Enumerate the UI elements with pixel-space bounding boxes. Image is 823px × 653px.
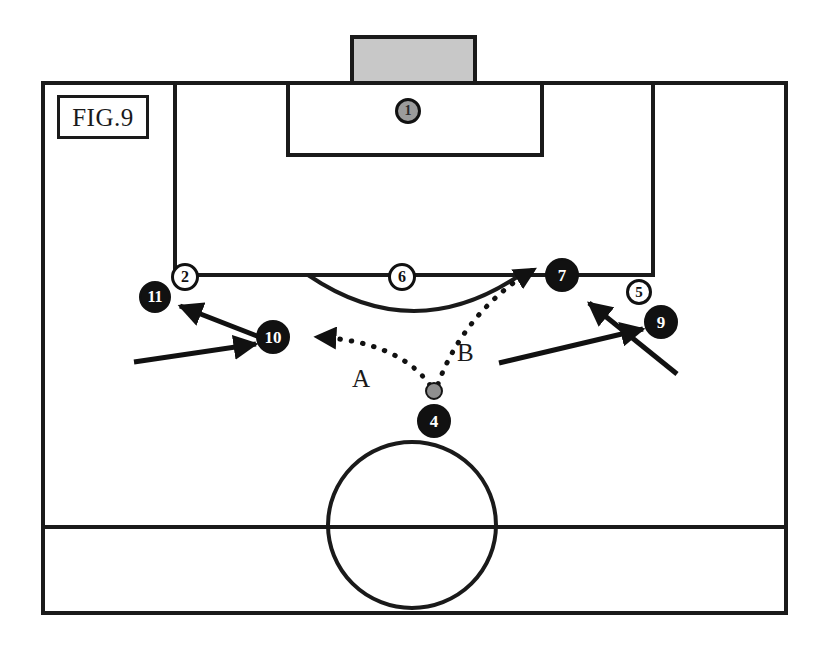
pass-route-b-label-text: B [457, 339, 474, 366]
player-7-number: 7 [558, 267, 567, 284]
pass-route-a-label: A [352, 366, 370, 391]
pass-route-b-label: B [457, 340, 474, 365]
player-2-number: 2 [181, 269, 189, 285]
player-9[interactable]: 9 [644, 305, 678, 339]
player-10[interactable]: 10 [256, 320, 290, 354]
player-4-number: 4 [430, 413, 439, 430]
pass-route-b [438, 270, 533, 384]
player-5-number: 5 [635, 285, 643, 300]
player-11[interactable]: 11 [139, 281, 171, 313]
player-1[interactable]: 1 [395, 98, 421, 124]
player-10-number: 10 [265, 329, 282, 346]
player-4[interactable]: 4 [417, 404, 451, 438]
pass-route-a-label-text: A [352, 365, 370, 392]
pass-route-a [318, 337, 430, 385]
movement-arrow-to-player-10 [134, 344, 256, 362]
player-9-number: 9 [657, 314, 666, 331]
player-5[interactable]: 5 [626, 279, 652, 305]
player-6-number: 6 [398, 269, 406, 285]
movement-arrow-to-player-9 [499, 329, 643, 363]
player-1-number: 1 [405, 104, 412, 118]
player-2[interactable]: 2 [171, 263, 199, 291]
goal-rectangle [352, 37, 475, 83]
ball-icon [425, 382, 443, 400]
tactical-diagram: FIG.9 1 2 6 5 11 10 7 9 4 A B [0, 0, 823, 653]
player-6[interactable]: 6 [388, 263, 416, 291]
figure-label-text: FIG.9 [72, 105, 134, 130]
field-boundary [43, 83, 786, 613]
figure-label-box: FIG.9 [57, 95, 149, 139]
player-7[interactable]: 7 [545, 258, 579, 292]
player-11-number: 11 [147, 289, 162, 305]
